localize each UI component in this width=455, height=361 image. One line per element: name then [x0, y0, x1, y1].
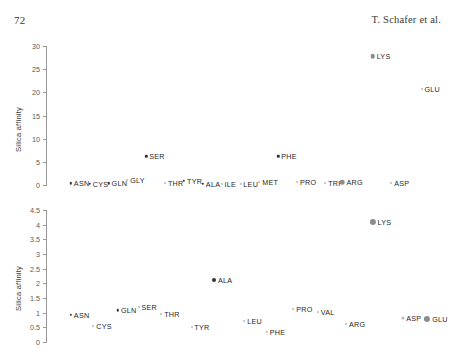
data-point-label: GLY — [130, 175, 145, 184]
data-point-marker — [277, 155, 279, 157]
data-point-label: LEU — [247, 316, 262, 325]
data-point-label: TYR — [187, 176, 202, 185]
data-point-label: LYS — [377, 217, 391, 226]
data-point-marker — [160, 313, 162, 315]
y-axis-tick — [43, 185, 46, 186]
scatter-plot-top: 051015202530Silica affinityASNCYSGLNGLYS… — [0, 40, 455, 196]
scatter-plot-bottom: 00.511.522.533.544.5Silica affinityASNCY… — [0, 203, 455, 353]
data-point-label: LYS — [377, 52, 391, 61]
y-axis-tick — [43, 139, 46, 140]
y-axis-tick — [43, 298, 46, 299]
data-point-label: GLU — [432, 314, 448, 323]
y-axis-line — [46, 210, 47, 343]
data-point-label: GLU — [424, 84, 440, 93]
data-point-marker — [296, 181, 298, 183]
y-axis-tick-label: 0 — [24, 181, 40, 190]
page-number: 72 — [14, 14, 26, 26]
data-point-label: THR — [164, 310, 180, 319]
data-point-label: TYR — [194, 322, 209, 331]
data-point-label: SER — [149, 152, 165, 161]
y-axis-tick-label: 2.5 — [24, 265, 40, 274]
data-point-marker — [164, 182, 166, 184]
data-point-marker — [324, 182, 326, 184]
y-axis-tick — [43, 239, 46, 240]
y-axis-tick-label: 1.5 — [24, 294, 40, 303]
y-axis-tick-label: 4.5 — [24, 206, 40, 215]
y-axis-tick — [43, 69, 46, 70]
data-point-marker — [145, 155, 147, 157]
data-point-marker — [370, 54, 375, 59]
data-point-marker — [138, 306, 140, 308]
data-point-label: GLN — [112, 179, 128, 188]
y-axis-tick — [43, 92, 46, 93]
data-point-label: ASN — [74, 311, 90, 320]
y-axis-tick-label: 0.5 — [24, 323, 40, 332]
data-point-label: ASP — [406, 313, 421, 322]
data-point-marker — [212, 278, 216, 282]
data-point-label: LEU — [243, 179, 258, 188]
y-axis-tick-label: 30 — [24, 42, 40, 51]
y-axis-tick-label: 3.5 — [24, 235, 40, 244]
data-point-label: GLN — [121, 306, 137, 315]
y-axis-tick — [43, 162, 46, 163]
data-point-marker — [340, 180, 345, 185]
y-axis-tick-label: 25 — [24, 65, 40, 74]
data-point-label: PRO — [296, 305, 312, 314]
y-axis-tick-label: 15 — [24, 112, 40, 121]
running-head: 72 T. Schafer et al. — [0, 14, 455, 32]
data-point-label: ALA — [206, 179, 220, 188]
data-point-marker — [401, 316, 404, 319]
y-axis-tick-label: 3 — [24, 250, 40, 259]
data-point-marker — [70, 314, 72, 316]
data-point-marker — [369, 219, 375, 225]
data-point-marker — [292, 308, 294, 310]
data-point-marker — [126, 179, 128, 181]
y-axis-title: Silica affinity — [14, 266, 23, 311]
data-point-marker — [317, 311, 319, 313]
data-point-marker — [243, 320, 245, 322]
data-point-label: PHE — [270, 328, 286, 337]
data-point-label: SER — [142, 303, 158, 312]
y-axis-tick-label: 5 — [24, 158, 40, 167]
data-point-marker — [240, 183, 242, 185]
y-axis-title: Silica affinity — [14, 107, 23, 152]
data-point-label: ALA — [218, 275, 232, 284]
y-axis-tick-label: 10 — [24, 135, 40, 144]
data-point-marker — [258, 181, 260, 183]
y-axis-tick — [43, 327, 46, 328]
y-axis-tick-label: 1 — [24, 309, 40, 318]
y-axis-tick — [43, 210, 46, 211]
y-axis-tick — [43, 283, 46, 284]
data-point-marker — [424, 315, 430, 321]
data-point-marker — [70, 182, 72, 184]
y-axis-tick — [43, 225, 46, 226]
data-point-marker — [390, 182, 392, 184]
document-page: 72 T. Schafer et al. 051015202530Silica … — [0, 0, 455, 361]
data-point-label: ASN — [74, 179, 90, 188]
data-point-label: CYS — [96, 321, 112, 330]
y-axis-tick — [43, 313, 46, 314]
y-axis-tick — [43, 254, 46, 255]
data-point-label: MET — [262, 178, 278, 187]
data-point-label: ASP — [394, 178, 409, 187]
data-point-label: PRO — [300, 178, 316, 187]
y-axis-tick — [43, 342, 46, 343]
data-point-label: PHE — [281, 152, 297, 161]
y-axis-tick-label: 20 — [24, 88, 40, 97]
data-point-label: THR — [168, 179, 184, 188]
data-point-label: ILE — [225, 179, 237, 188]
y-axis-tick-label: 4 — [24, 221, 40, 230]
data-point-marker — [221, 183, 223, 185]
running-head-authors: T. Schafer et al. — [372, 14, 441, 25]
y-axis-tick — [43, 269, 46, 270]
plot-area-bottom: 00.511.522.533.544.5Silica affinityASNCY… — [0, 203, 455, 353]
data-point-marker — [421, 88, 423, 90]
data-point-marker — [266, 331, 268, 333]
plot-area-top: 051015202530Silica affinityASNCYSGLNGLYS… — [0, 40, 455, 196]
y-axis-tick-label: 0 — [24, 338, 40, 347]
data-point-label: VAL — [321, 308, 335, 317]
data-point-marker — [117, 309, 119, 311]
y-axis-tick — [43, 116, 46, 117]
data-point-label: ARG — [349, 319, 365, 328]
y-axis-tick — [43, 46, 46, 47]
